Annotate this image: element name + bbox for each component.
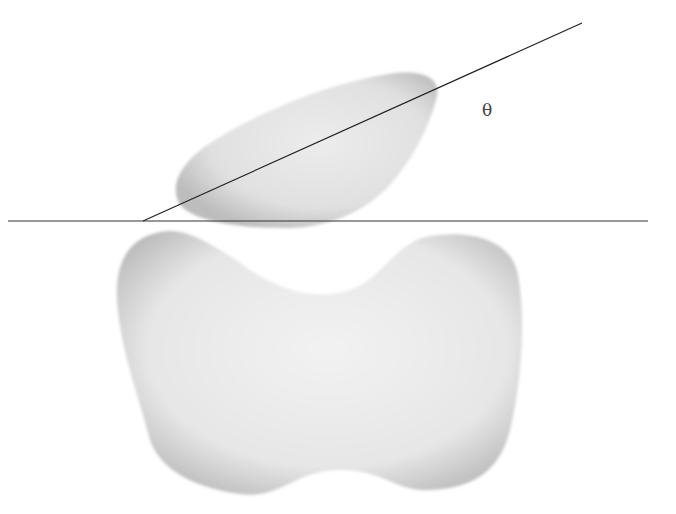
diagram-canvas — [0, 0, 676, 514]
upper-shape — [176, 73, 438, 228]
lower-shape — [117, 231, 522, 495]
theta-angle-label: θ — [482, 100, 492, 120]
